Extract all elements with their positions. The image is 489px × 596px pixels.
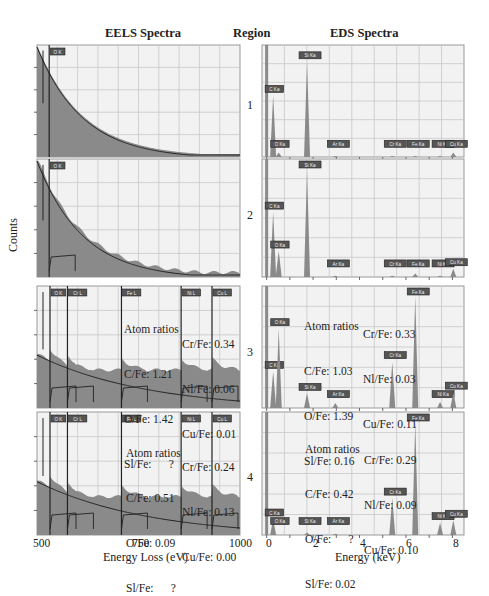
- eds-panel-1: C KaO KaSi KaAr KaCr KaFe KaNi KaCu Ka: [262, 45, 464, 157]
- y-axis-label: Counts: [6, 218, 21, 252]
- eels-x-axis-label: Energy Loss (eV): [103, 550, 188, 565]
- peak-label: Cr Ka: [384, 260, 406, 267]
- region-label-4: 4: [247, 470, 253, 485]
- peak-label: Cu L: [213, 289, 231, 296]
- eels-panel-2: O K: [37, 159, 240, 277]
- peak-label: Cr L: [68, 289, 86, 296]
- svg-text:Cr L: Cr L: [73, 417, 82, 422]
- svg-text:Cu Ka: Cu Ka: [450, 512, 463, 517]
- ratio-crfe: Cr/Fe: 0.29: [364, 453, 418, 468]
- eels-tick-750: 750: [132, 537, 149, 549]
- svg-text:O K: O K: [54, 50, 63, 55]
- ratio-cufe: Cu/Fe: 0.00: [182, 550, 236, 565]
- peak-label: O Ka: [271, 319, 289, 326]
- svg-text:Fe Ka: Fe Ka: [412, 142, 425, 147]
- svg-text:Cu Ka: Cu Ka: [450, 384, 463, 389]
- eels-tick-500: 500: [33, 537, 50, 549]
- eds-tick-6: 6: [406, 537, 412, 549]
- peak-label: Si Ka: [299, 52, 321, 59]
- ratio-nife: Nl/Fe: 0.13: [182, 505, 236, 520]
- region-label-2: 2: [247, 208, 253, 223]
- eels4-ratios-left: Atom ratios C/Fe: 0.51 O/Fe: 0.09 Sl/Fe:…: [126, 416, 181, 596]
- svg-text:Cu Ka: Cu Ka: [450, 142, 463, 147]
- peak-label: O Ka: [271, 140, 289, 147]
- ratio-title: Atom ratios: [304, 319, 359, 334]
- peak-label: C Ka: [265, 85, 283, 92]
- ratio-title: Atom ratios: [124, 322, 179, 337]
- eds4-ratios-left: Atom ratios C/Fe: 0.42 O/Fe: ? Sl/Fe: 0.…: [305, 412, 360, 596]
- peak-label: C Ka: [265, 509, 283, 516]
- peak-label: Cu Ka: [445, 140, 467, 147]
- ratio-cfe: C/Fe: 0.51: [126, 491, 181, 506]
- svg-text:O K: O K: [54, 291, 63, 296]
- eds-tick-4: 4: [360, 537, 366, 549]
- peak-label: O K: [51, 289, 66, 296]
- peak-label: Ni L: [182, 289, 200, 296]
- svg-text:O Ka: O Ka: [275, 243, 286, 248]
- ratio-sife: Sl/Fe: 0.02: [305, 577, 360, 592]
- region-header: Region: [233, 26, 271, 41]
- svg-text:Cu L: Cu L: [217, 291, 227, 296]
- peak-label: O K: [50, 162, 65, 169]
- svg-text:C Ka: C Ka: [269, 204, 280, 209]
- ratio-cfe: C/Fe: 0.42: [305, 487, 360, 502]
- ratio-nife: Nl/Fe: 0.06: [182, 382, 236, 397]
- peak-label: O Ka: [271, 518, 289, 525]
- svg-text:Cr Ka: Cr Ka: [389, 262, 401, 267]
- peak-label: Ar Ka: [327, 260, 349, 267]
- eds-tick-0: 0: [266, 537, 272, 549]
- peak-label: Cr Ka: [384, 140, 406, 147]
- peak-label: Fe Ka: [407, 260, 429, 267]
- svg-text:O Ka: O Ka: [275, 320, 286, 325]
- eds-tick-8: 8: [453, 537, 459, 549]
- peak-label: Cr L: [68, 415, 86, 422]
- svg-text:Si Ka: Si Ka: [305, 53, 316, 58]
- svg-text:Ni L: Ni L: [187, 291, 196, 296]
- svg-text:Cr L: Cr L: [73, 291, 82, 296]
- peak-label: Ni Ka: [432, 391, 454, 398]
- svg-text:Ni Ka: Ni Ka: [437, 392, 449, 397]
- ratio-crfe: Cr/Fe: 0.33: [363, 327, 417, 342]
- ratio-sife: Sl/Fe: ?: [126, 581, 181, 596]
- ratio-nife: Nl/Fe: 0.09: [364, 498, 418, 513]
- ratio-nife: Nl/Fe: 0.03: [363, 372, 417, 387]
- svg-text:Fe Ka: Fe Ka: [412, 290, 425, 295]
- eels-tick-1000: 1000: [229, 537, 252, 549]
- eels4-ratios-right: Cr/Fe: 0.24 Nl/Fe: 0.13 Cu/Fe: 0.00: [182, 430, 236, 580]
- ratio-cfe: C/Fe: 1.21: [124, 367, 179, 382]
- peak-label: Fe Ka: [407, 140, 429, 147]
- peak-label: O K: [51, 415, 66, 422]
- ratio-crfe: Cr/Fe: 0.24: [182, 460, 236, 475]
- eds-header: EDS Spectra: [330, 26, 398, 41]
- eels-panel-1: O K: [37, 45, 240, 157]
- svg-text:O K: O K: [54, 164, 63, 169]
- peak-label: Cu Ka: [445, 259, 467, 266]
- peak-label: Ar Ka: [327, 140, 349, 147]
- peak-label: O Ka: [271, 241, 289, 248]
- svg-text:Si Ka: Si Ka: [305, 163, 316, 168]
- peak-label: Fe Ka: [407, 288, 429, 295]
- svg-text:O Ka: O Ka: [275, 519, 286, 524]
- peak-label: C Ka: [265, 361, 283, 368]
- svg-text:C Ka: C Ka: [269, 87, 280, 92]
- eds-panel-2: C KaO KaSi KaAr KaCr KaFe KaNi KaCu Ka: [262, 159, 464, 277]
- svg-text:Ar Ka: Ar Ka: [333, 142, 345, 147]
- ratio-title: Atom ratios: [126, 446, 181, 461]
- svg-text:Cu Ka: Cu Ka: [450, 260, 463, 265]
- ratio-title: Atom ratios: [305, 442, 360, 457]
- eels-header: EELS Spectra: [105, 26, 181, 41]
- eds-tick-2: 2: [313, 537, 319, 549]
- ratio-cfe: C/Fe: 1.03: [304, 364, 359, 379]
- ratio-crfe: Cr/Fe: 0.34: [182, 337, 236, 352]
- peak-label: O K: [50, 48, 65, 55]
- svg-text:Fe Ka: Fe Ka: [412, 262, 425, 267]
- svg-text:O K: O K: [54, 417, 63, 422]
- eds-x-axis-label: Energy (keV): [335, 550, 400, 565]
- region-label-1: 1: [247, 98, 253, 113]
- svg-text:Ar Ka: Ar Ka: [333, 262, 345, 267]
- peak-label: Cu Ka: [445, 510, 467, 517]
- svg-text:O Ka: O Ka: [275, 142, 286, 147]
- peak-label: Cu Ka: [445, 382, 467, 389]
- peak-label: Si Ka: [299, 161, 321, 168]
- svg-text:Cr Ka: Cr Ka: [389, 142, 401, 147]
